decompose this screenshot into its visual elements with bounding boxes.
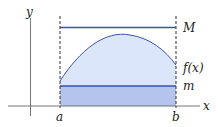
label-m: m: [183, 79, 194, 93]
label-a: a: [56, 110, 63, 124]
diagram-canvas: y x a b M f(x) m: [0, 0, 218, 127]
label-b: b: [172, 110, 180, 124]
y-axis-label: y: [25, 5, 33, 19]
lower-bound-rectangle: [60, 86, 176, 106]
area-under-curve: [60, 34, 176, 86]
label-M: M: [182, 21, 196, 35]
x-axis-label: x: [203, 99, 210, 113]
label-f-x: f(x): [182, 61, 204, 75]
